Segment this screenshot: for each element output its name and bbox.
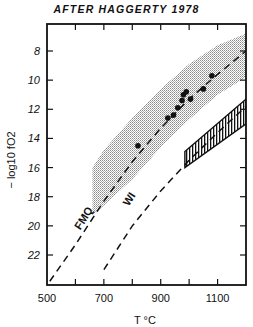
data-point: [165, 115, 171, 121]
x-axis-label: T °C: [134, 314, 156, 326]
x-tick-label: 500: [38, 292, 56, 304]
x-tick-label: 700: [95, 292, 113, 304]
y-tick-label: 20: [27, 220, 41, 232]
data-point: [179, 98, 185, 104]
y-tick-label: 18: [28, 191, 41, 203]
curve-label-fmq: FMQ: [72, 204, 95, 231]
y-tick-label: 22: [27, 249, 40, 261]
y-axis-label: − log10 fO2: [5, 131, 17, 188]
y-tick-label: 14: [28, 132, 40, 144]
y-tick-label: 16: [28, 162, 41, 174]
data-point: [188, 96, 194, 102]
data-point: [201, 86, 207, 92]
shaded-regions: [92, 34, 246, 216]
y-tick-label: 8: [34, 45, 41, 57]
x-tick-label: 1100: [206, 292, 230, 304]
chart-plot-area: 5007009001100T °C 810121416182022− log10…: [0, 0, 253, 327]
curve-label-wi: WI: [120, 190, 137, 208]
data-point: [175, 105, 181, 111]
y-tick-label: 12: [28, 103, 40, 115]
data-point: [135, 143, 141, 149]
data-point: [171, 112, 177, 118]
data-point: [184, 89, 190, 95]
x-tick-label: 900: [152, 292, 170, 304]
y-tick-label: 10: [28, 74, 41, 86]
data-point: [209, 73, 215, 79]
